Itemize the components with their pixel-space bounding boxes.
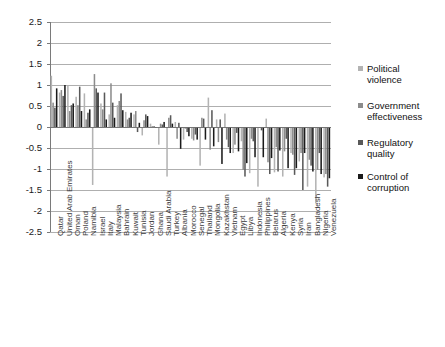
x-axis-category-label: Venezuela <box>330 199 338 236</box>
legend-item: Government effectiveness <box>358 100 429 122</box>
bar <box>122 110 124 127</box>
legend-swatch-icon <box>358 66 363 71</box>
bar <box>323 127 325 177</box>
bar <box>287 127 289 168</box>
bar <box>120 93 122 127</box>
bar <box>229 127 231 153</box>
bar <box>300 127 302 153</box>
bar <box>158 127 160 145</box>
bar <box>100 103 102 127</box>
bar <box>150 124 152 127</box>
bar <box>226 127 228 140</box>
bar <box>183 127 185 140</box>
bar <box>92 127 94 185</box>
legend-swatch-icon <box>358 103 363 108</box>
bar <box>304 127 306 153</box>
bar <box>87 113 89 127</box>
bar <box>117 105 119 127</box>
bar <box>75 97 77 127</box>
y-axis-tick-label: -2 <box>6 206 42 216</box>
y-axis-tick-label: -0.5 <box>6 143 42 153</box>
bar <box>234 127 236 145</box>
bar <box>277 127 279 172</box>
bar <box>242 127 244 170</box>
bar <box>108 114 110 127</box>
bar <box>279 127 281 151</box>
bar <box>228 127 230 147</box>
bar <box>312 127 314 172</box>
bar <box>127 119 129 127</box>
bar <box>208 98 210 127</box>
bar <box>317 127 319 170</box>
bar <box>191 127 193 139</box>
bar <box>170 115 172 127</box>
bar <box>296 127 298 168</box>
bar <box>153 126 155 127</box>
bar <box>163 122 165 127</box>
bar <box>218 127 220 142</box>
bar <box>72 103 74 127</box>
bar <box>152 126 154 127</box>
bar <box>193 127 195 140</box>
y-axis-tick-label: 0.5 <box>6 101 42 111</box>
bar <box>89 109 91 127</box>
bar <box>299 127 301 161</box>
bar <box>284 127 286 151</box>
bar <box>141 127 143 135</box>
bar <box>130 113 132 127</box>
bar <box>213 127 215 146</box>
bar <box>168 118 170 127</box>
bar <box>110 83 112 127</box>
bar <box>104 93 106 127</box>
legend-label: Regulatory quality <box>367 137 429 159</box>
bar <box>77 105 79 127</box>
y-axis-tick-label: 2 <box>6 38 42 48</box>
legend-label: Government effectiveness <box>367 100 429 122</box>
bar <box>129 118 131 127</box>
bar <box>325 127 327 174</box>
bar <box>94 74 96 127</box>
bar <box>81 111 83 127</box>
bar <box>241 127 243 141</box>
bar <box>143 120 145 127</box>
bar <box>271 127 273 158</box>
y-axis-tick-label: -1.5 <box>6 185 42 195</box>
legend-label: Control of corruption <box>367 171 429 193</box>
bar <box>118 101 120 127</box>
bar <box>269 127 271 174</box>
bar <box>188 127 190 136</box>
bar <box>274 127 276 172</box>
y-axis-tick-label: -1 <box>6 164 42 174</box>
bar <box>52 103 54 127</box>
bar <box>276 127 278 147</box>
bar <box>246 127 248 163</box>
bar <box>292 127 294 155</box>
bar <box>67 86 69 127</box>
bar <box>209 127 211 150</box>
legend-item: Regulatory quality <box>358 137 429 159</box>
bar <box>329 127 331 178</box>
bar <box>61 90 63 127</box>
bar <box>178 123 180 127</box>
bar <box>249 127 251 173</box>
bar <box>302 127 304 190</box>
bar <box>166 127 168 177</box>
bar <box>139 123 141 127</box>
bar <box>180 127 182 149</box>
bar <box>238 127 240 151</box>
legend-item: Control of corruption <box>358 171 429 193</box>
bar <box>265 119 267 127</box>
bar <box>244 127 246 177</box>
y-axis-tick-label: 0 <box>6 122 42 132</box>
bar <box>196 127 198 140</box>
bar <box>172 124 174 127</box>
bar <box>327 127 329 187</box>
bar <box>320 127 322 174</box>
bar <box>114 118 116 127</box>
bar <box>309 127 311 160</box>
bar <box>282 127 284 177</box>
bar <box>102 109 104 127</box>
bar <box>294 127 296 175</box>
bar <box>135 111 137 127</box>
bar <box>203 119 205 127</box>
